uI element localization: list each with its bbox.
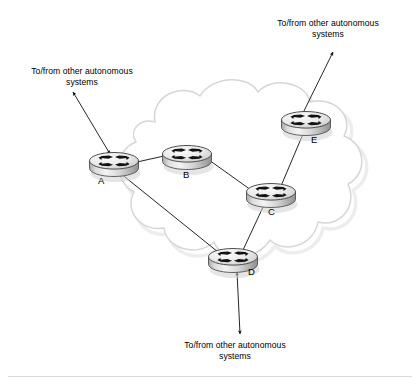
external-link-a	[73, 92, 110, 154]
external-label-d: To/from other autonomous systems	[152, 340, 318, 361]
router-icon-e[interactable]	[282, 112, 333, 142]
router-label-e: E	[311, 135, 317, 145]
network-diagram: A B C D E To/from other autonomous syste…	[0, 0, 420, 388]
external-label-a: To/from other autonomous systems	[12, 66, 152, 87]
router-label-c: C	[268, 207, 275, 217]
external-link-d	[237, 272, 240, 334]
router-label-b: B	[183, 170, 189, 180]
router-label-a: A	[98, 176, 104, 186]
diagram-canvas	[0, 0, 420, 388]
router-label-d: D	[248, 267, 255, 277]
external-label-e: To/from other autonomous systems	[252, 18, 404, 39]
